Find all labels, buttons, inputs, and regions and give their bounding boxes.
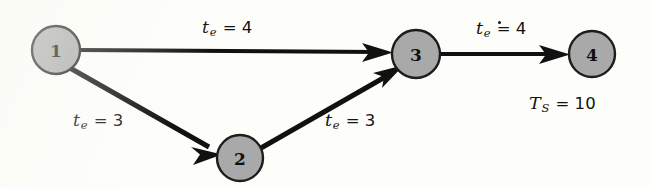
node-3-label: 3 — [410, 45, 422, 65]
node-1-label: 1 — [50, 41, 62, 61]
edge-2-to-3 — [261, 65, 404, 148]
edge-1-to-3 — [79, 43, 393, 62]
edge-label-2-to-3: te=3 — [325, 110, 375, 132]
edge-label-1-to-2: te=3 — [73, 110, 123, 132]
node-2[interactable]: 2 — [217, 135, 263, 181]
edge-label-2-to-3-equals: = — [346, 111, 360, 130]
edge-3-to-4 — [438, 45, 570, 64]
edge-1-to-2-line — [70, 68, 209, 147]
diagram-canvas: 1 2 3 4 te=4 te=4 te=3 te=3 TS=10 — [0, 0, 651, 188]
edge-label-2-to-3-var: t — [325, 110, 332, 130]
node-4-label: 4 — [586, 45, 598, 65]
edge-label-3-to-4-subscript: e — [484, 26, 491, 40]
edge-label-1-to-2-equals: = — [94, 111, 108, 130]
edge-label-1-to-3-equals: = — [223, 18, 237, 37]
edge-label-1-to-3: te=4 — [202, 17, 252, 39]
prime-dot-icon — [498, 21, 501, 24]
edge-label-1-to-3-value: 4 — [242, 18, 253, 37]
edge-label-1-to-3-var: t — [202, 17, 209, 37]
edge-label-1-to-2-subscript: e — [81, 118, 88, 132]
edge-label-3-to-4-var: t — [476, 18, 483, 38]
edge-1-to-3-line — [79, 50, 378, 52]
edge-label-3-to-4-value: 4 — [516, 19, 527, 38]
node-2-label: 2 — [234, 149, 246, 169]
total-time-value: 10 — [575, 94, 596, 113]
total-time-subscript: S — [541, 101, 549, 115]
node-3[interactable]: 3 — [392, 30, 440, 78]
node-4[interactable]: 4 — [569, 31, 615, 77]
edge-label-1-to-3-subscript: e — [210, 25, 217, 39]
total-time-var: T — [529, 93, 541, 113]
node-1[interactable]: 1 — [32, 26, 80, 74]
total-time-annotation: TS=10 — [529, 93, 596, 115]
total-time-equals: = — [555, 94, 569, 113]
edge-label-2-to-3-subscript: e — [333, 118, 340, 132]
edge-label-3-to-4: te=4 — [476, 18, 526, 40]
edge-label-1-to-2-value: 3 — [113, 111, 124, 130]
edge-label-2-to-3-value: 3 — [365, 111, 376, 130]
edge-label-1-to-2-var: t — [73, 110, 80, 130]
